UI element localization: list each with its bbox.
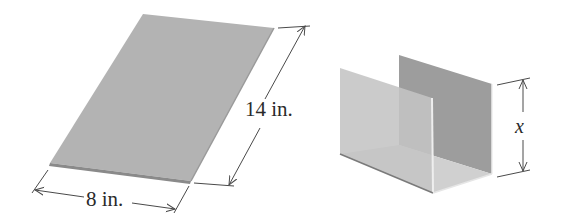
height-dimension [497, 78, 530, 177]
height-label: x [515, 114, 524, 138]
flat-sheet [49, 14, 274, 184]
extension-line-right [174, 186, 189, 213]
dimension-line-upper [265, 26, 305, 99]
u-channel [340, 55, 492, 193]
dimension-line-left [35, 190, 84, 197]
width-label: 8 in. [84, 189, 125, 210]
length-label: 14 in. [245, 99, 293, 120]
extension-line-bottom [497, 170, 530, 177]
sheet-top-face [50, 14, 274, 181]
extension-line-bottom [194, 183, 234, 186]
dimension-line-right [132, 203, 175, 209]
extension-line-top [497, 78, 530, 85]
dimension-line-lower [229, 128, 260, 185]
extension-line-left [32, 170, 48, 193]
